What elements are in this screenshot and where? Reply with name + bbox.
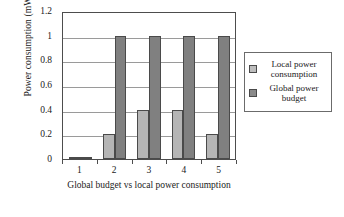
y-tick-label: 0 (47, 155, 52, 165)
bar (218, 36, 230, 159)
light-gray-swatch-icon (249, 65, 257, 73)
legend-item: Local power consumption (249, 59, 327, 80)
bar-chart-figure: Power consumption (mW) 00.20.40.60.811.2… (0, 0, 344, 217)
legend: Local power consumptionGlobal power budg… (244, 52, 332, 112)
bar (137, 110, 149, 159)
dark-gray-swatch-icon (249, 89, 257, 97)
y-tick-label: 1 (47, 32, 52, 42)
y-tick-label: 1.2 (40, 7, 52, 17)
bar (172, 110, 184, 159)
bar-group (97, 13, 131, 159)
bar-group (201, 13, 235, 159)
legend-label: Global power budget (261, 83, 327, 104)
x-tick-label: 5 (201, 165, 236, 175)
bar (115, 36, 127, 159)
x-tick-label: 2 (97, 165, 132, 175)
bar-group (166, 13, 200, 159)
bar (183, 36, 195, 159)
bar-groups (63, 13, 235, 159)
x-tick-mark (166, 160, 167, 164)
bar (149, 36, 161, 159)
x-tick-mark (62, 160, 63, 164)
plot-area (62, 12, 236, 160)
x-tick-mark (97, 160, 98, 164)
y-tick-label: 0.4 (40, 106, 52, 116)
y-axis-tick-labels: 00.20.40.60.811.2 (22, 12, 56, 160)
x-tick-mark (132, 160, 133, 164)
x-axis-title: Global budget vs local power consumption (40, 180, 258, 192)
x-axis-tick-labels: 12345 (62, 165, 236, 175)
bar (103, 134, 115, 159)
bar-group (132, 13, 166, 159)
x-tick-label: 3 (132, 165, 167, 175)
bar (80, 157, 92, 159)
legend-label: Local power consumption (261, 59, 327, 80)
bar-group (63, 13, 97, 159)
x-tick-mark (236, 160, 237, 164)
y-tick-label: 0.8 (40, 57, 52, 67)
bar (69, 157, 81, 159)
y-tick-label: 0.2 (40, 131, 52, 141)
x-tick-mark (201, 160, 202, 164)
legend-item: Global power budget (249, 83, 327, 104)
x-tick-label: 1 (62, 165, 97, 175)
bar (206, 134, 218, 159)
x-tick-label: 4 (166, 165, 201, 175)
y-tick-label: 0.6 (40, 81, 52, 91)
